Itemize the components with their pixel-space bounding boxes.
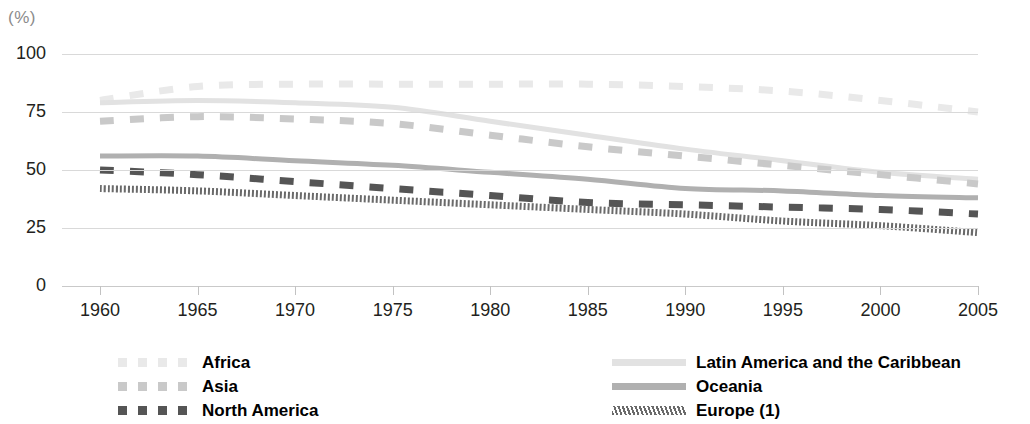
gridline-y-100	[62, 54, 978, 55]
legend-swatch-icon	[118, 358, 192, 367]
legend-swatch-icon	[612, 383, 686, 390]
x-axis-tick-labels: 1960196519701975198019851990199520002005	[0, 300, 1030, 326]
x-tick-mark-1970	[295, 286, 296, 295]
legend-column-right: Latin America and the CaribbeanOceaniaEu…	[612, 350, 961, 422]
x-tick-label-1975: 1975	[348, 300, 438, 321]
x-tick-label-1960: 1960	[55, 300, 145, 321]
gridline-y-75	[62, 112, 978, 113]
x-tick-label-2000: 2000	[835, 300, 925, 321]
y-tick-label-100: 100	[0, 43, 46, 64]
plot-area	[62, 54, 978, 286]
x-tick-label-1980: 1980	[445, 300, 535, 321]
x-tick-mark-2000	[880, 286, 881, 295]
gridline-y-50	[62, 170, 978, 171]
y-tick-label-0: 0	[0, 275, 46, 296]
x-tick-mark-1965	[198, 286, 199, 295]
x-tick-label-2005: 2005	[933, 300, 1023, 321]
y-axis-tick-labels: 0255075100	[0, 54, 46, 286]
y-axis-unit-label: (%)	[8, 8, 36, 28]
chart-root: (%) 0255075100 1960196519701975198019851…	[0, 0, 1030, 424]
y-tick-label-50: 50	[0, 159, 46, 180]
chart-legend: AfricaAsiaNorth America Latin America an…	[0, 350, 1030, 424]
legend-item-label: Latin America and the Caribbean	[696, 354, 961, 371]
x-tick-label-1965: 1965	[153, 300, 243, 321]
x-tick-mark-1975	[393, 286, 394, 295]
legend-swatch-icon	[612, 406, 686, 415]
legend-item-africa[interactable]: Africa	[118, 350, 319, 374]
legend-swatch-icon	[118, 382, 192, 391]
series-line-africa	[100, 84, 978, 112]
y-tick-label-75: 75	[0, 101, 46, 122]
x-tick-mark-1995	[783, 286, 784, 295]
legend-swatch-icon	[612, 359, 686, 366]
gridline-y-25	[62, 228, 978, 229]
legend-item-latin-america-and-the-caribbean[interactable]: Latin America and the Caribbean	[612, 350, 961, 374]
x-tick-label-1990: 1990	[640, 300, 730, 321]
legend-item-europe-1[interactable]: Europe (1)	[612, 398, 961, 422]
x-tick-mark-1990	[685, 286, 686, 295]
x-tick-mark-1985	[588, 286, 589, 295]
legend-item-label: Europe (1)	[696, 402, 780, 419]
legend-item-asia[interactable]: Asia	[118, 374, 319, 398]
legend-item-oceania[interactable]: Oceania	[612, 374, 961, 398]
x-tick-label-1995: 1995	[738, 300, 828, 321]
legend-item-label: Asia	[202, 378, 238, 395]
x-tick-label-1985: 1985	[543, 300, 633, 321]
legend-swatch-icon	[118, 406, 192, 415]
x-tick-mark-2005	[978, 286, 979, 295]
legend-column-left: AfricaAsiaNorth America	[118, 350, 319, 422]
x-tick-mark-1980	[490, 286, 491, 295]
legend-item-label: North America	[202, 402, 319, 419]
x-tick-mark-1960	[100, 286, 101, 295]
x-axis-ticks	[62, 286, 978, 296]
x-tick-label-1970: 1970	[250, 300, 340, 321]
legend-item-label: Oceania	[696, 378, 762, 395]
legend-item-label: Africa	[202, 354, 250, 371]
legend-item-north-america[interactable]: North America	[118, 398, 319, 422]
y-tick-label-25: 25	[0, 217, 46, 238]
